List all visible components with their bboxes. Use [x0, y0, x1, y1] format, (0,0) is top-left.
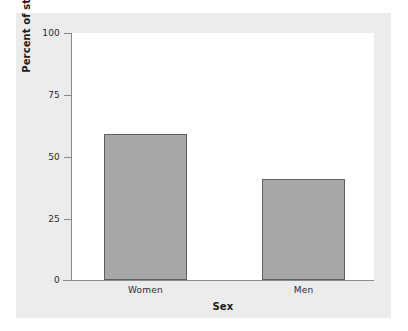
- x-axis-title: Sex: [72, 301, 374, 312]
- y-axis-tick-mark: [64, 280, 71, 281]
- y-axis-tick-label: 0: [54, 276, 60, 285]
- bar-chart-figure: 100 75 50 25 0 Percent of students Women…: [0, 0, 408, 331]
- y-axis-tick-mark: [64, 219, 71, 220]
- x-axis-line: [63, 280, 374, 281]
- bar-women: [104, 134, 187, 280]
- y-axis-title: Percent of students: [21, 0, 32, 86]
- x-axis-category-label-women: Women: [104, 285, 187, 295]
- y-axis-line: [71, 33, 72, 281]
- y-axis-tick-mark: [64, 157, 71, 158]
- y-axis-tick-mark: [64, 33, 71, 34]
- y-axis-tick-label: 75: [48, 91, 60, 100]
- y-axis-tick-label: 50: [48, 153, 60, 162]
- y-axis-tick-label: 25: [48, 215, 60, 224]
- bar-men: [262, 179, 345, 280]
- y-axis-tick-mark: [64, 95, 71, 96]
- x-axis-category-label-men: Men: [262, 285, 345, 295]
- y-axis-tick-label: 100: [42, 29, 60, 38]
